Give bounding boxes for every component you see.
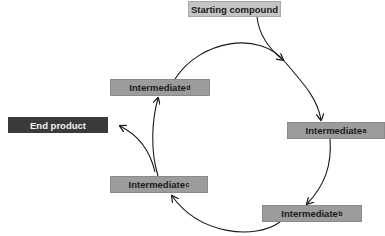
arrow-c-to-d	[153, 98, 158, 176]
node-label: Intermediate	[306, 125, 363, 136]
node-intermediate-d: Intermediated	[110, 79, 210, 96]
arrow-to-end-product	[120, 126, 155, 172]
arrow-start-to-cycle	[257, 17, 283, 60]
arrow-a-to-b	[307, 139, 330, 204]
node-subscript: a	[363, 127, 367, 134]
node-subscript: c	[186, 181, 190, 188]
node-intermediate-a: Intermediatea	[287, 122, 385, 139]
node-end-product: End product	[8, 117, 108, 133]
node-label: Starting compound	[191, 4, 278, 15]
node-label: Intermediate	[129, 179, 186, 190]
node-label: End product	[30, 120, 86, 131]
node-subscript: d	[186, 84, 190, 91]
node-starting-compound: Starting compound	[188, 1, 281, 17]
node-intermediate-c: Intermediatec	[110, 176, 208, 193]
node-intermediate-b: Intermediateb	[262, 205, 362, 222]
node-label: Intermediate	[129, 82, 186, 93]
node-label: Intermediate	[281, 208, 338, 219]
node-subscript: b	[338, 210, 342, 217]
